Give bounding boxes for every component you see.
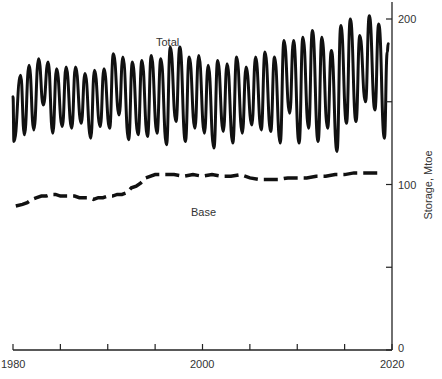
y-tick-label-100: 100: [398, 179, 416, 191]
total-series-label: Total: [156, 36, 179, 48]
x-axis: 1980 2000 2020: [1, 344, 404, 370]
x-tick-label-2000: 2000: [190, 358, 214, 370]
y-tick-label-0: 0: [398, 342, 404, 354]
x-axis-ticks: [13, 344, 392, 350]
x-tick-label-1980: 1980: [1, 358, 25, 370]
plot-area: [13, 16, 388, 206]
y-axis-title: Storage, Mtoe: [422, 150, 434, 219]
base-series-label: Base: [191, 206, 216, 218]
y-tick-label-200: 200: [398, 13, 416, 25]
base-series-line: [16, 173, 383, 206]
total-series-line: [13, 16, 388, 152]
x-tick-label-2020: 2020: [380, 358, 404, 370]
storage-line-chart: 1980 2000 2020 0 100 200 Storage, Mtoe T…: [0, 0, 442, 379]
y-axis: 0 100 200 Storage, Mtoe: [386, 2, 434, 354]
